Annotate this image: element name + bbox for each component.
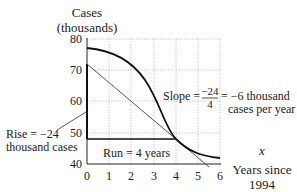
x-tick: 4 <box>173 169 179 183</box>
y-tick: 70 <box>70 63 82 77</box>
y-tick: 50 <box>70 126 82 140</box>
x-axis-variable: x <box>258 143 265 158</box>
y-tick: 40 <box>70 157 82 171</box>
slope-numerator: −24 <box>201 85 219 97</box>
slope-line2: cases per year <box>228 102 295 116</box>
x-axis-title-line1: Years since <box>233 162 292 177</box>
chart: 80 70 60 50 40 0 1 2 3 4 5 6 Cases (thou… <box>0 0 297 192</box>
x-tick: 1 <box>106 169 112 183</box>
x-tick: 6 <box>217 169 223 183</box>
x-tick-labels: 0 1 2 3 4 5 6 <box>84 169 223 183</box>
y-axis-title-line1: Cases <box>72 5 102 20</box>
slope-suffix: = −6 thousand <box>221 89 290 103</box>
x-tick: 3 <box>151 169 157 183</box>
slope-denominator: 4 <box>207 98 213 110</box>
y-tick: 60 <box>70 94 82 108</box>
y-axis-title-line2: (thousands) <box>57 20 118 35</box>
x-axis-title-line2: 1994 <box>249 177 276 192</box>
x-tick: 2 <box>128 169 134 183</box>
cases-curve <box>87 48 220 158</box>
run-label: Run = 4 years <box>103 146 170 160</box>
rise-label-line2: thousand cases <box>6 140 78 154</box>
x-tick: 5 <box>195 169 201 183</box>
rise-label-line1: Rise = −24 <box>6 127 59 141</box>
x-tick: 0 <box>84 169 90 183</box>
slope-prefix: Slope = <box>163 89 200 103</box>
